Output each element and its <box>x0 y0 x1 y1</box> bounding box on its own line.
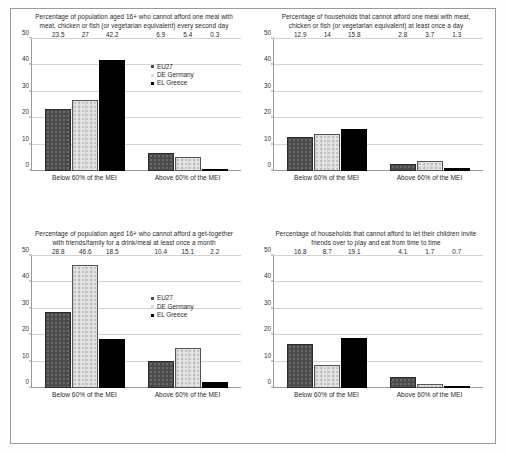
bar-value-label: 15.1 <box>182 248 194 255</box>
bar-value-label: 2.2 <box>210 248 219 255</box>
bar-group: 12.91415.8 <box>276 39 379 171</box>
y-tick-label: 50 <box>22 29 29 36</box>
bar-group: 4.11.70.7 <box>379 256 482 388</box>
bar-de[interactable]: 14 <box>314 134 340 171</box>
y-tick-label: 30 <box>264 298 271 305</box>
x-tick-label: Above 60% of the MEI <box>378 171 481 187</box>
y-tick-label: 50 <box>264 246 271 253</box>
legend-item-de: DE Germany <box>151 71 194 79</box>
y-tick-label: 20 <box>22 108 29 115</box>
bar-slot: 8.7 <box>314 256 340 388</box>
plot-wrapper: 0102030405012.91415.82.83.71.3 Below 60%… <box>273 39 483 187</box>
bar-value-label: 5.4 <box>183 31 192 38</box>
y-tick-mark <box>29 255 32 256</box>
legend-item-el: EL Greece <box>151 79 194 87</box>
x-axis-labels: Below 60% of the MEI Above 60% of the ME… <box>275 388 481 404</box>
y-tick-mark <box>29 360 32 361</box>
y-tick-mark <box>271 307 274 308</box>
y-tick-mark <box>29 170 32 171</box>
bar-el[interactable]: 19.1 <box>341 338 367 388</box>
bar-value-label: 2.8 <box>398 31 407 38</box>
bar-de[interactable]: 3.7 <box>417 161 443 171</box>
bar-de[interactable]: 27 <box>72 100 98 171</box>
bar-value-label: 4.1 <box>398 248 407 255</box>
bar-eu27[interactable]: 12.9 <box>287 137 313 171</box>
y-tick-mark <box>271 387 274 388</box>
bar-value-label: 1.3 <box>452 31 461 38</box>
bar-group: 23.52742.2 <box>34 39 137 171</box>
bar-value-label: 1.7 <box>425 248 434 255</box>
legend: EU27 DE Germany EL Greece <box>151 294 194 319</box>
bar-groups: 23.52742.26.95.40.3 <box>34 39 239 171</box>
y-tick-mark <box>271 64 274 65</box>
bar-slot: 5.4 <box>175 39 201 171</box>
y-tick-label: 20 <box>264 325 271 332</box>
bar-slot: 15.8 <box>341 39 367 171</box>
bar-eu27[interactable]: 23.5 <box>45 109 71 171</box>
legend-label: EL Greece <box>157 311 187 319</box>
bar-value-label: 8.7 <box>323 248 332 255</box>
legend-label: EL Greece <box>157 79 187 87</box>
bar-eu27[interactable]: 6.9 <box>148 153 174 171</box>
bar-el[interactable]: 42.2 <box>99 60 125 171</box>
legend-label: EU27 <box>157 294 173 302</box>
y-tick-label: 30 <box>22 298 29 305</box>
plot-wrapper: 0102030405028.846.618.510.415.12.2 Below… <box>31 256 241 404</box>
x-axis-labels: Below 60% of the MEI Above 60% of the ME… <box>275 171 481 187</box>
legend-swatch-icon <box>151 297 154 300</box>
y-tick-mark <box>29 38 32 39</box>
bar-value-label: 23.5 <box>52 31 64 38</box>
y-tick-label: 40 <box>264 55 271 62</box>
bar-de[interactable]: 5.4 <box>175 157 201 171</box>
y-tick-label: 10 <box>264 351 271 358</box>
y-tick-mark <box>271 143 274 144</box>
bar-slot: 42.2 <box>99 39 125 171</box>
bar-de[interactable]: 8.7 <box>314 365 340 388</box>
legend-item-eu27: EU27 <box>151 63 194 71</box>
y-tick-mark <box>271 281 274 282</box>
bar-slot: 4.1 <box>390 256 416 388</box>
x-axis-labels: Below 60% of the MEI Above 60% of the ME… <box>33 171 239 187</box>
figure-frame: Percentage of population aged 16+ who ca… <box>10 8 496 444</box>
chart-bottom-right: Percentage of households that cannot aff… <box>253 226 495 443</box>
bar-el[interactable]: 18.5 <box>99 339 125 388</box>
legend-item-el: EL Greece <box>151 311 194 319</box>
y-tick-mark <box>29 143 32 144</box>
figure-page: Percentage of population aged 16+ who ca… <box>0 0 506 454</box>
bar-de[interactable]: 46.6 <box>72 265 98 388</box>
bar-slot: 2.2 <box>202 256 228 388</box>
bar-slot: 18.5 <box>99 256 125 388</box>
plot-area: 0102030405023.52742.26.95.40.3 <box>31 39 241 171</box>
bar-value-label: 15.8 <box>348 31 360 38</box>
y-tick-label: 30 <box>264 81 271 88</box>
bar-eu27[interactable]: 10.4 <box>148 361 174 388</box>
bar-groups: 28.846.618.510.415.12.2 <box>34 256 239 388</box>
bar-slot: 6.9 <box>148 39 174 171</box>
y-tick-mark <box>29 64 32 65</box>
y-tick-label: 30 <box>22 81 29 88</box>
bar-value-label: 19.1 <box>348 248 360 255</box>
chart-top-right: Percentage of households that cannot aff… <box>253 9 495 226</box>
y-tick-label: 20 <box>264 108 271 115</box>
legend-label: DE Germany <box>157 303 194 311</box>
y-tick-mark <box>29 117 32 118</box>
y-tick-label: 0 <box>267 161 271 168</box>
bar-de[interactable]: 15.1 <box>175 348 201 388</box>
bar-eu27[interactable]: 16.8 <box>287 344 313 388</box>
bar-value-label: 0.7 <box>452 248 461 255</box>
bar-eu27[interactable]: 2.8 <box>390 164 416 171</box>
y-tick-label: 20 <box>22 325 29 332</box>
bar-slot: 46.6 <box>72 256 98 388</box>
bar-slot: 2.8 <box>390 39 416 171</box>
bar-eu27[interactable]: 28.8 <box>45 312 71 388</box>
legend-swatch-icon <box>151 65 154 68</box>
bar-slot: 10.4 <box>148 256 174 388</box>
x-tick-label: Below 60% of the MEI <box>275 171 378 187</box>
bar-slot: 19.1 <box>341 256 367 388</box>
bar-slot: 1.3 <box>444 39 470 171</box>
legend-item-eu27: EU27 <box>151 294 194 302</box>
y-tick-mark <box>271 255 274 256</box>
bar-eu27[interactable]: 4.1 <box>390 377 416 388</box>
bar-value-label: 46.6 <box>79 248 91 255</box>
bar-el[interactable]: 15.8 <box>341 129 367 171</box>
